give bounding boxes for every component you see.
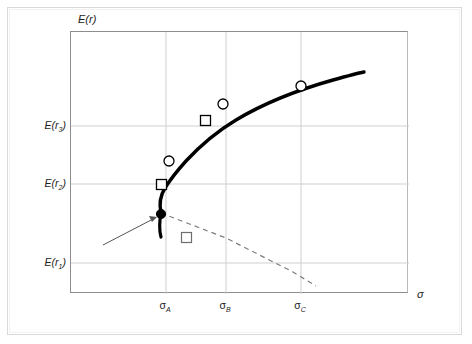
x-tick-label-c: σC (280, 299, 320, 313)
x-tick-label-a: σA (145, 299, 185, 313)
marker-dot-global-minimum-variance (156, 209, 165, 218)
marker-circle-a2 (218, 99, 228, 109)
x-axis-title: σ (417, 288, 424, 300)
gmv-arrow (103, 216, 157, 245)
y-tick-label-3: E(r3) (4, 119, 66, 133)
gridlines (71, 32, 409, 294)
chart-svg (71, 32, 409, 294)
y-tick-label-1: E(r1) (4, 256, 66, 270)
marker-circle-a3 (296, 81, 306, 91)
y-tick-label-2: E(r2) (4, 177, 66, 191)
marker-circle-a1 (164, 156, 174, 166)
figure-screenshot: E(r) σ E(r3) E(r2) E(r1) σA σB σC Global… (0, 0, 472, 344)
dashed-combination-line (161, 213, 316, 286)
efficient-frontier-curve (160, 72, 364, 213)
x-tick-label-b: σB (205, 299, 245, 313)
y-axis-title: E(r) (78, 13, 96, 25)
marker-square-p1 (157, 180, 167, 190)
marker-square-individual-asset (182, 233, 192, 243)
plot-area (70, 31, 408, 293)
marker-square-p2 (201, 116, 211, 126)
